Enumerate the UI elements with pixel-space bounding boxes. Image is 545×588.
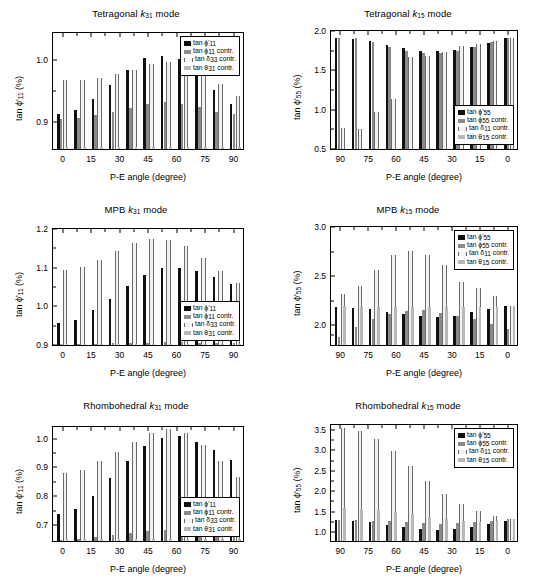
legend-swatch-icon: [184, 323, 193, 328]
legend-swatch-icon: [184, 511, 191, 516]
chart-panel-mpb-k15: MPB k15 mode2.02.53.09075604530150P-E an…: [272, 196, 544, 392]
bar: [63, 473, 68, 541]
chart-legend[interactable]: tan ϕ'55tan ϕ55 contr.tan δ11 contr.tan …: [454, 428, 514, 468]
x-tick-label: 15: [475, 154, 484, 164]
bar: [343, 306, 346, 345]
legend-item[interactable]: tan θ31 contr.: [184, 525, 237, 533]
legend-item[interactable]: tan θ31 contr.: [184, 329, 237, 337]
legend-swatch-icon: [184, 306, 191, 311]
bar: [63, 80, 68, 149]
legend-swatch-icon: [458, 127, 467, 132]
x-tick-label: 0: [505, 350, 510, 360]
legend-swatch-icon: [458, 458, 465, 463]
bar: [169, 147, 172, 149]
bar: [135, 539, 138, 541]
bar: [57, 514, 60, 541]
chart-legend[interactable]: tan ϕ'11tan ϕ11 contr.tan δ33 contr.tan …: [180, 36, 240, 76]
bar-group: [352, 227, 364, 345]
x-axis-label: P-E angle (degree): [330, 172, 518, 182]
y-tick-label: 1.2: [36, 224, 48, 234]
bar-group: [402, 31, 414, 149]
bar: [57, 323, 60, 345]
y-tick-label: 1.0: [314, 105, 326, 115]
bar: [97, 78, 102, 149]
x-tick-label: 45: [419, 154, 428, 164]
bar: [187, 344, 190, 345]
bar-group: [74, 33, 86, 149]
legend-item-label: tan θ31 contr.: [193, 525, 234, 534]
y-axis-label: tan ϕ'11 (%): [14, 76, 24, 121]
panel-title: Tetragonal k15 mode: [272, 8, 544, 19]
bar-group: [161, 427, 173, 541]
bar: [97, 260, 102, 345]
bar: [428, 307, 431, 346]
x-tick-label: 0: [60, 350, 65, 360]
bar: [166, 240, 171, 345]
bar-group: [57, 33, 69, 149]
legend-swatch-icon: [458, 433, 465, 438]
bar: [100, 344, 103, 345]
bar: [118, 147, 121, 149]
y-tick-label: 1.5: [314, 65, 326, 75]
chart-legend[interactable]: tan ϕ'11tan ϕ11 contr.tan δ33 contr.tan …: [180, 301, 240, 341]
chart-legend[interactable]: tan ϕ'11tan ϕ11 contr.tan δ33 contr.tan …: [180, 497, 240, 537]
y-tick-label: 0.9: [36, 462, 48, 472]
x-tick-label: 30: [115, 350, 124, 360]
bar: [100, 539, 103, 541]
bar-group: [143, 229, 155, 345]
bar-group: [419, 31, 431, 149]
y-axis-label: tan ϕ'55 (%): [292, 270, 302, 316]
bar: [161, 438, 164, 541]
y-tick-label: 1.5: [314, 507, 326, 517]
legend-swatch-icon: [184, 315, 191, 320]
legend-swatch-icon: [458, 442, 465, 447]
legend-item-label: tan θ31 contr.: [193, 64, 234, 73]
bar: [428, 517, 431, 541]
x-tick-label: 75: [200, 350, 209, 360]
legend-item[interactable]: tan θ15 contr.: [458, 456, 511, 464]
x-tick-label: 0: [60, 154, 65, 164]
bar-group: [126, 427, 138, 541]
bar: [115, 251, 120, 345]
y-tick-label: 0.9: [36, 340, 48, 350]
y-tick-label: 2.0: [314, 486, 326, 496]
x-tick-label: 75: [363, 546, 372, 556]
chart-legend[interactable]: tan ϕ'55tan ϕ55 contr.tan δ11 contr.tan …: [454, 230, 514, 270]
bar-group: [74, 229, 86, 345]
bar: [187, 539, 190, 541]
y-axis-label: tan ϕ'55 (%): [292, 74, 302, 120]
panel-title: Tetragonal k31 mode: [0, 8, 272, 19]
bar-group: [369, 227, 381, 345]
bar: [496, 307, 499, 346]
bar: [411, 514, 414, 541]
legend-swatch-icon: [458, 252, 467, 257]
bar: [425, 56, 430, 149]
y-axis-label: tan ϕ'11 (%): [14, 272, 24, 317]
legend-swatch-icon: [458, 119, 465, 124]
x-tick-label: 0: [60, 546, 65, 556]
x-axis-label: P-E angle (degree): [330, 564, 518, 574]
x-tick-label: 15: [86, 546, 95, 556]
bar: [358, 129, 363, 149]
bar-group: [402, 227, 414, 345]
chart-legend[interactable]: tan ϕ'55tan ϕ55 contr.tan δ11 contr.tan …: [454, 105, 514, 145]
y-tick-label: 2.0: [314, 320, 326, 330]
legend-swatch-icon: [184, 41, 191, 46]
bar: [66, 344, 69, 345]
y-tick-label: 2.0: [314, 26, 326, 36]
bar: [80, 470, 85, 541]
legend-item[interactable]: tan θ15 contr.: [458, 133, 511, 141]
legend-swatch-icon: [184, 50, 191, 55]
x-tick-label: 45: [143, 154, 152, 164]
chart-panel-tetragonal-k31: Tetragonal k31 mode0.91.00153045607590P-…: [0, 0, 272, 196]
bar: [143, 275, 146, 345]
y-tick-label: 3.0: [314, 222, 326, 232]
legend-item[interactable]: tan θ31 contr.: [184, 64, 237, 72]
legend-item[interactable]: tan θ15 contr.: [458, 258, 511, 266]
bar-group: [109, 33, 121, 149]
legend-swatch-icon: [184, 331, 191, 336]
legend-swatch-icon: [458, 235, 465, 240]
x-tick-label: 90: [336, 546, 345, 556]
bar: [83, 539, 86, 541]
x-tick-label: 15: [86, 350, 95, 360]
